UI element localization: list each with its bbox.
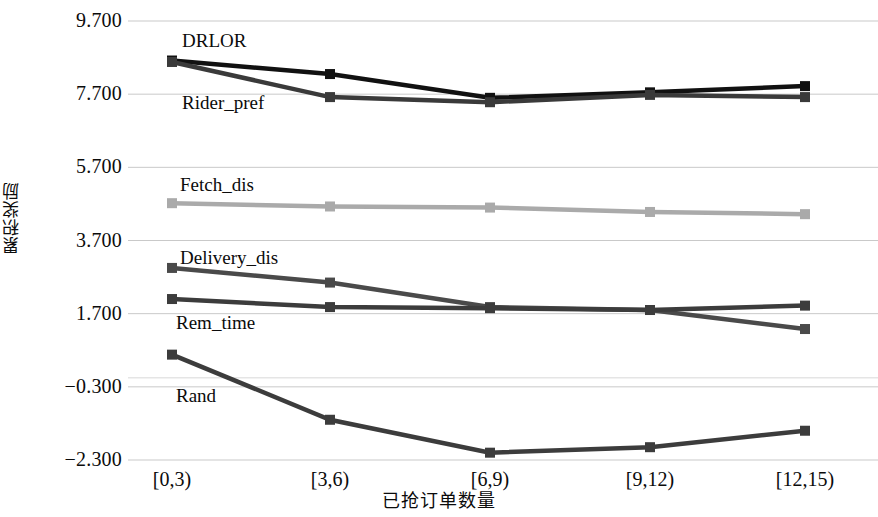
series-fetch_dis — [167, 198, 810, 219]
y-axis-tick-label: 7.700 — [2, 83, 122, 103]
data-point-marker — [325, 278, 335, 288]
plot-svg — [128, 0, 878, 470]
data-point-marker — [800, 209, 810, 219]
y-axis-tick-labels: 9.7007.7005.7003.7001.700−0.300−2.300 — [0, 0, 122, 517]
y-axis-tick-label: 9.700 — [2, 10, 122, 30]
series-delivery_dis — [167, 263, 810, 334]
data-point-marker — [167, 294, 177, 304]
y-axis-tick-label: −0.300 — [2, 376, 122, 396]
series-line — [172, 61, 805, 98]
x-axis-tick-label: [9,12) — [580, 466, 720, 492]
plot-area — [128, 0, 878, 470]
x-axis-tick-label: [12,15) — [735, 466, 875, 492]
data-point-marker — [645, 305, 655, 315]
data-point-marker — [800, 426, 810, 436]
data-point-marker — [485, 97, 495, 107]
data-point-marker — [325, 201, 335, 211]
data-point-marker — [800, 324, 810, 334]
series-rand — [167, 350, 810, 458]
data-point-marker — [167, 57, 177, 67]
data-point-marker — [167, 350, 177, 360]
data-point-marker — [800, 301, 810, 311]
series-line — [172, 268, 805, 329]
series-rem_time — [167, 294, 810, 315]
data-point-marker — [645, 90, 655, 100]
data-point-marker — [325, 415, 335, 425]
x-axis-tick-label: [6,9) — [420, 466, 560, 492]
series-label-rem_time: Rem_time — [176, 312, 255, 334]
data-point-marker — [325, 92, 335, 102]
data-point-marker — [645, 207, 655, 217]
data-point-marker — [325, 302, 335, 312]
data-point-marker — [645, 442, 655, 452]
series-label-rand: Rand — [176, 385, 216, 407]
data-point-marker — [167, 263, 177, 273]
line-chart: 9.7007.7005.7003.7001.700−0.300−2.300 累积… — [0, 0, 878, 517]
x-axis-tick-label: [3,6) — [260, 466, 400, 492]
x-axis-title: 已抢订单数量 — [0, 490, 878, 512]
data-point-marker — [485, 203, 495, 213]
series-label-delivery_dis: Delivery_dis — [180, 247, 278, 269]
data-point-marker — [485, 303, 495, 313]
data-point-marker — [325, 69, 335, 79]
data-point-marker — [800, 92, 810, 102]
series-line — [172, 355, 805, 453]
y-axis-tick-label: 5.700 — [2, 156, 122, 176]
data-point-marker — [800, 81, 810, 91]
data-point-marker — [485, 448, 495, 458]
x-axis-tick-label: [0,3) — [102, 466, 242, 492]
series-label-rider_pref: Rider_pref — [182, 92, 264, 114]
y-axis-title: 累积奖励 — [2, 182, 30, 254]
data-point-marker — [167, 198, 177, 208]
series-label-drlor: DRLOR — [182, 30, 246, 52]
series-label-fetch_dis: Fetch_dis — [180, 174, 254, 196]
y-axis-tick-label: 1.700 — [2, 303, 122, 323]
